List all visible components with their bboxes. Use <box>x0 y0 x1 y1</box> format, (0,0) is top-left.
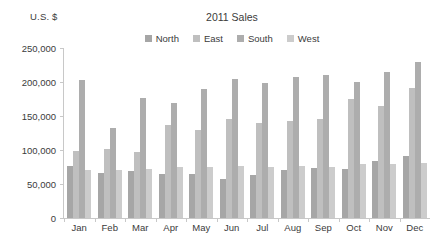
bar-west-oct <box>360 164 366 218</box>
y-axis-tick-label: 50,000 <box>27 179 56 190</box>
x-axis-label: Nov <box>369 222 400 233</box>
legend-item-north[interactable]: North <box>145 33 179 44</box>
x-axis-label: Mar <box>125 222 156 233</box>
x-axis-labels: JanFebMarAprMayJunJulAugSepOctNovDec <box>64 222 430 233</box>
legend-item-south[interactable]: South <box>237 33 273 44</box>
x-axis-label: Feb <box>95 222 126 233</box>
sales-bar-chart: U.S. $ 2011 Sales NorthEastSouthWest 250… <box>0 0 438 251</box>
legend-item-east[interactable]: East <box>193 33 223 44</box>
y-axis-tick-label: 100,000 <box>22 145 56 156</box>
bar-group <box>308 48 339 218</box>
bar-group <box>64 48 95 218</box>
bar-west-jan <box>85 170 91 218</box>
bar-west-may <box>207 167 213 218</box>
bar-west-apr <box>177 167 183 218</box>
bar-group <box>278 48 309 218</box>
y-axis-tick-label: 250,000 <box>22 43 56 54</box>
x-axis-label: Jun <box>217 222 248 233</box>
bar-west-jun <box>238 166 244 218</box>
x-axis-label: Apr <box>156 222 187 233</box>
legend-item-west[interactable]: West <box>287 33 319 44</box>
y-axis-tick-label: 150,000 <box>22 111 56 122</box>
x-axis-label: Jul <box>247 222 278 233</box>
y-axis-tick-label: 0 <box>51 213 56 224</box>
bar-group <box>125 48 156 218</box>
bar-group <box>400 48 431 218</box>
bar-west-nov <box>390 164 396 218</box>
legend-label: East <box>204 33 223 44</box>
chart-legend: NorthEastSouthWest <box>0 33 438 44</box>
legend-swatch-icon <box>145 35 152 42</box>
bar-west-feb <box>116 170 122 218</box>
bar-group <box>247 48 278 218</box>
legend-label: West <box>298 33 319 44</box>
bar-west-sep <box>329 167 335 218</box>
bar-group <box>339 48 370 218</box>
x-axis-label: Jan <box>64 222 95 233</box>
plot-area: 250,000200,000150,000100,00050,0000 <box>64 48 430 218</box>
bar-group <box>217 48 248 218</box>
x-axis-label: May <box>186 222 217 233</box>
bar-group <box>156 48 187 218</box>
bar-groups <box>64 48 430 218</box>
legend-swatch-icon <box>237 35 244 42</box>
legend-label: South <box>248 33 273 44</box>
bar-group <box>369 48 400 218</box>
legend-swatch-icon <box>287 35 294 42</box>
bar-group <box>95 48 126 218</box>
y-axis-tick-label: 200,000 <box>22 77 56 88</box>
bar-west-dec <box>421 163 427 218</box>
legend-label: North <box>156 33 179 44</box>
x-axis-label: Aug <box>278 222 309 233</box>
bar-west-mar <box>146 169 152 218</box>
x-axis-label: Sep <box>308 222 339 233</box>
x-axis-label: Oct <box>339 222 370 233</box>
x-axis-label: Dec <box>400 222 431 233</box>
bar-west-aug <box>299 166 305 218</box>
bar-group <box>186 48 217 218</box>
chart-title: 2011 Sales <box>0 11 438 23</box>
legend-swatch-icon <box>193 35 200 42</box>
bar-west-jul <box>268 167 274 218</box>
